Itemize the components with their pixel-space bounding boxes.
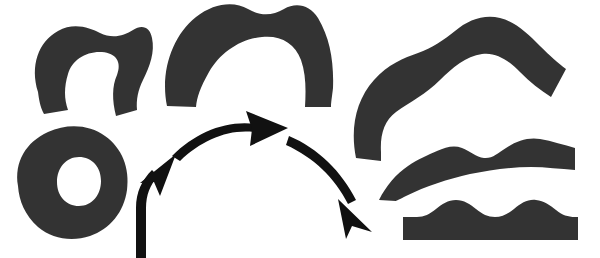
shape-transformation-diagram: Shape unrolling transformation sequence … (0, 0, 600, 258)
diagram-canvas (0, 0, 600, 258)
